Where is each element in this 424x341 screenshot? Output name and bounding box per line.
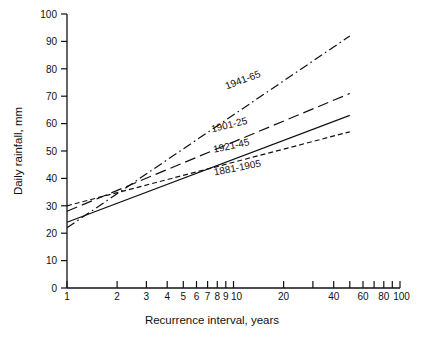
y-tick-label-60: 60: [46, 118, 58, 129]
x-tick-label-1: 1: [64, 291, 70, 302]
y-tick-label-50: 50: [46, 146, 58, 157]
x-tick-label-5: 5: [181, 291, 187, 302]
y-tick-label-40: 40: [46, 173, 58, 184]
x-tick-label-40: 40: [328, 291, 340, 302]
y-tick-label-20: 20: [46, 228, 58, 239]
x-tick-label-6: 6: [194, 291, 200, 302]
x-axis-tick-labels: 1 2 3 4 5 6 7 8 9 10 20 40 60 80 100: [64, 291, 410, 302]
y-tick-label-100: 100: [40, 9, 57, 20]
y-axis-title: Daily rainfall, mm: [12, 107, 24, 195]
x-tick-label-7: 7: [205, 291, 211, 302]
x-tick-label-60: 60: [357, 291, 369, 302]
x-tick-label-4: 4: [164, 291, 170, 302]
x-tick-label-3: 3: [144, 291, 150, 302]
chart-background: [0, 0, 424, 341]
x-tick-label-10: 10: [231, 291, 243, 302]
x-tick-label-80: 80: [378, 291, 390, 302]
y-tick-label-10: 10: [46, 255, 58, 266]
y-tick-label-30: 30: [46, 201, 58, 212]
chart-figure: 100 90 80 70 60 50 40 30 20 10 0 Daily r…: [0, 0, 424, 341]
y-tick-label-0: 0: [51, 283, 57, 294]
x-tick-label-8: 8: [215, 291, 221, 302]
y-tick-label-90: 90: [46, 36, 58, 47]
x-tick-label-2: 2: [114, 291, 120, 302]
rainfall-recurrence-chart: 100 90 80 70 60 50 40 30 20 10 0 Daily r…: [0, 0, 424, 341]
x-tick-label-20: 20: [278, 291, 290, 302]
x-tick-label-9: 9: [223, 291, 229, 302]
x-axis-ticks: [67, 281, 400, 288]
x-axis-title: Recurrence interval, years: [145, 314, 279, 326]
y-tick-label-70: 70: [46, 91, 58, 102]
x-tick-label-100: 100: [393, 291, 410, 302]
y-tick-label-80: 80: [46, 64, 58, 75]
